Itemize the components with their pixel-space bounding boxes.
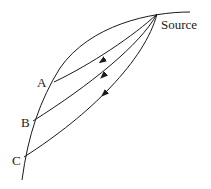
boundary-curve [22,12,190,180]
label-a: A [37,76,46,89]
label-c: C [12,154,21,167]
label-source: Source [161,18,197,31]
arrow-icon-b [103,14,157,76]
label-b: B [21,116,30,129]
